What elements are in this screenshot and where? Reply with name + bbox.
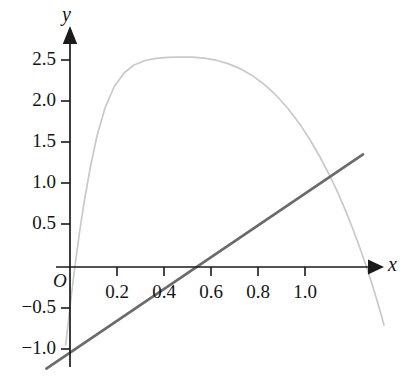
straight-line <box>46 154 363 368</box>
y-tick-label-minus-0.5: −0.5 <box>0 296 56 318</box>
y-tick-label-2.0: 2.0 <box>0 89 56 111</box>
plot-canvas <box>0 0 402 388</box>
chart-figure: 2.5 2.0 1.5 1.0 0.5 −0.5 −1.0 0.2 0.4 0.… <box>0 0 402 388</box>
x-tick-label-0.6: 0.6 <box>191 281 231 303</box>
y-tick-label-2.5: 2.5 <box>0 48 56 70</box>
x-axis-label: x <box>388 253 397 276</box>
y-axis-ticks <box>61 60 70 349</box>
y-tick-label-0.5: 0.5 <box>0 212 56 234</box>
y-axis-arrowhead <box>63 26 77 44</box>
x-axis-ticks <box>117 267 305 276</box>
y-tick-label-1.0: 1.0 <box>0 171 56 193</box>
x-tick-label-0.4: 0.4 <box>144 281 184 303</box>
x-axis-arrowhead <box>368 260 384 275</box>
x-tick-label-1.0: 1.0 <box>285 281 325 303</box>
x-tick-label-0.8: 0.8 <box>238 281 278 303</box>
y-tick-label-minus-1.0: −1.0 <box>0 337 56 359</box>
origin-label: O <box>53 270 67 292</box>
y-axis-label: y <box>62 3 71 26</box>
y-tick-label-1.5: 1.5 <box>0 130 56 152</box>
x-tick-label-0.2: 0.2 <box>97 281 137 303</box>
